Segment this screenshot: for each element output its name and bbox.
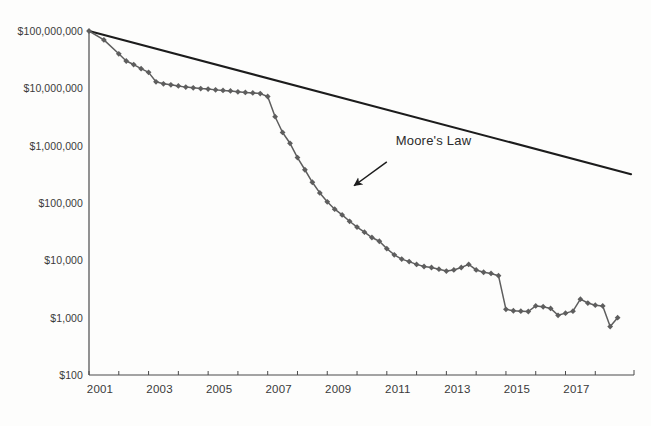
cost-per-genome-markers xyxy=(86,28,620,329)
data-point-marker xyxy=(250,90,256,96)
x-axis-tick-label: 2013 xyxy=(444,383,470,395)
y-axis-tick-label: $10,000 xyxy=(44,254,83,266)
data-point-marker xyxy=(235,89,241,95)
data-point-marker xyxy=(585,300,591,306)
x-axis-ticks xyxy=(89,370,634,375)
data-point-marker xyxy=(496,273,502,279)
data-point-marker xyxy=(228,88,234,94)
data-point-marker xyxy=(429,265,435,271)
x-axis-tick-label: 2001 xyxy=(87,383,113,395)
x-axis-tick-label: 2007 xyxy=(265,383,291,395)
data-point-marker xyxy=(265,94,271,100)
data-point-marker xyxy=(138,66,144,72)
x-axis-tick-label: 2005 xyxy=(206,383,232,395)
y-axis-tick-label: $100,000 xyxy=(38,197,83,209)
x-axis-tick-label: 2003 xyxy=(146,383,172,395)
moores-law-series xyxy=(89,31,631,174)
data-point-marker xyxy=(183,84,189,90)
moores-law-annotation-label: Moore's Law xyxy=(396,133,472,148)
data-point-marker xyxy=(406,259,412,265)
x-axis-tick-label: 2011 xyxy=(385,383,411,395)
x-axis-tick-label: 2015 xyxy=(504,383,530,395)
data-point-marker xyxy=(175,83,181,89)
data-point-marker xyxy=(198,86,204,92)
data-point-marker xyxy=(414,261,420,267)
y-axis-tick-label: $1,000 xyxy=(50,312,83,324)
data-point-marker xyxy=(518,308,524,314)
moores-law-line xyxy=(89,31,631,174)
data-point-marker xyxy=(563,310,569,316)
data-point-marker xyxy=(257,91,263,97)
y-axis-tick-label: $100 xyxy=(59,369,83,381)
data-point-marker xyxy=(213,87,219,93)
y-axis-tick-label: $100,000,000 xyxy=(18,25,83,37)
y-axis-tick-label: $1,000,000 xyxy=(29,140,83,152)
data-point-marker xyxy=(510,308,516,314)
data-point-marker xyxy=(161,81,167,87)
data-point-marker xyxy=(540,304,546,310)
data-point-marker xyxy=(190,85,196,91)
data-point-marker xyxy=(220,88,226,94)
cost-per-genome-series xyxy=(86,28,620,329)
data-point-marker xyxy=(458,265,464,271)
data-point-marker xyxy=(421,264,427,270)
annotation-arrow-line xyxy=(354,162,387,186)
x-axis-tick-label: 2017 xyxy=(563,383,589,395)
data-point-marker xyxy=(205,86,211,92)
chart-container: $100,000,000$10,000,000$1,000,000$100,00… xyxy=(0,0,651,426)
data-point-marker xyxy=(272,114,278,120)
data-point-marker xyxy=(592,302,598,308)
data-point-marker xyxy=(481,269,487,275)
data-point-marker xyxy=(436,266,442,272)
chart-plot-area xyxy=(0,0,651,426)
data-point-marker xyxy=(600,303,606,309)
data-point-marker xyxy=(451,267,457,273)
data-point-marker xyxy=(131,62,137,68)
x-axis-tick-label: 2009 xyxy=(325,383,351,395)
y-axis-tick-label: $10,000,000 xyxy=(24,82,84,94)
data-point-marker xyxy=(242,89,248,95)
data-point-marker xyxy=(443,268,449,274)
moores-law-arrow xyxy=(354,162,387,186)
data-point-marker xyxy=(488,271,494,277)
cost-per-genome-line xyxy=(89,31,618,327)
data-point-marker xyxy=(503,306,509,312)
data-point-marker xyxy=(168,82,174,88)
